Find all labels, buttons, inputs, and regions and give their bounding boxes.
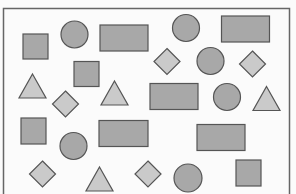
triangle-shape <box>101 81 128 105</box>
triangle-shape <box>253 87 280 111</box>
rectangle-shape <box>197 125 245 151</box>
circle-shape <box>173 15 200 42</box>
shapes-layer <box>19 15 280 193</box>
rectangle-shape <box>150 84 198 110</box>
circle-shape <box>174 164 202 192</box>
shapes-canvas <box>0 0 296 194</box>
square-shape <box>236 160 261 186</box>
circle-shape <box>214 84 241 111</box>
rectangle-shape <box>222 16 270 42</box>
shapes-figure <box>0 0 296 194</box>
square-shape <box>21 118 46 144</box>
diamond-shape <box>30 161 56 187</box>
triangle-shape <box>86 167 113 191</box>
diamond-shape <box>240 51 266 77</box>
rectangle-shape <box>99 121 148 147</box>
diamond-shape <box>53 91 79 117</box>
diamond-shape <box>135 161 161 187</box>
triangle-shape <box>19 74 46 98</box>
square-shape <box>23 34 48 59</box>
circle-shape <box>61 21 88 48</box>
rectangle-shape <box>100 25 148 51</box>
square-shape <box>74 62 99 87</box>
circle-shape <box>60 133 87 160</box>
diamond-shape <box>154 49 180 75</box>
circle-shape <box>197 48 224 75</box>
